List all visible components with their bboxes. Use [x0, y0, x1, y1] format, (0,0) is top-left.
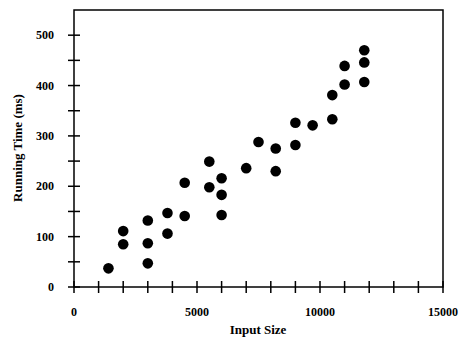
- x-tick-label: 5000: [185, 305, 209, 319]
- x-tick-label: 10000: [305, 305, 335, 319]
- data-point: [162, 228, 173, 239]
- y-tick-label: 200: [36, 179, 54, 193]
- data-point: [118, 226, 129, 237]
- y-tick-label: 100: [36, 230, 54, 244]
- data-point: [327, 114, 338, 125]
- data-point: [216, 173, 227, 184]
- y-tick-label: 300: [36, 129, 54, 143]
- y-tick-label: 0: [48, 280, 54, 294]
- data-point: [359, 45, 370, 56]
- data-point: [359, 57, 370, 68]
- data-point: [339, 61, 350, 72]
- data-point: [241, 163, 252, 174]
- x-tick-label: 0: [71, 305, 77, 319]
- data-point: [359, 77, 370, 88]
- x-axis-tick-labels: 050001000015000: [71, 305, 458, 319]
- data-point: [204, 182, 215, 193]
- data-point: [290, 118, 301, 129]
- scatter-chart: 050001000015000 0100200300400500 Input S…: [0, 0, 468, 348]
- plot-frame: [74, 10, 443, 287]
- y-axis-label: Running Time (ms): [10, 94, 25, 202]
- data-point: [270, 166, 281, 177]
- data-point: [216, 210, 227, 221]
- data-point: [216, 190, 227, 201]
- data-point: [179, 211, 190, 222]
- x-axis-label: Input Size: [230, 322, 287, 337]
- data-point: [103, 263, 114, 274]
- data-point: [143, 238, 154, 249]
- data-point: [253, 137, 264, 148]
- data-point: [162, 208, 173, 219]
- y-tick-label: 500: [36, 28, 54, 42]
- data-point: [270, 143, 281, 154]
- y-tick-label: 400: [36, 79, 54, 93]
- data-point: [339, 79, 350, 90]
- data-point: [179, 177, 190, 188]
- x-tick-label: 15000: [428, 305, 458, 319]
- data-point: [327, 90, 338, 101]
- y-axis-tick-labels: 0100200300400500: [36, 28, 54, 294]
- data-point: [143, 215, 154, 226]
- data-point: [307, 120, 318, 131]
- data-point: [143, 258, 154, 269]
- data-point: [290, 140, 301, 151]
- data-point: [204, 156, 215, 167]
- data-point: [118, 239, 129, 250]
